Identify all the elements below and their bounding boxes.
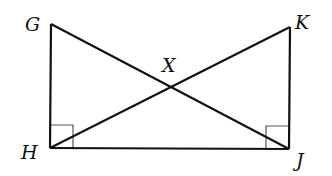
diagram-canvas: G K X H J: [0, 0, 332, 176]
right-angle-mark-h: [50, 125, 73, 148]
segment-kj: [289, 27, 290, 149]
point-label-h: H: [20, 141, 38, 163]
point-label-g: G: [25, 13, 40, 35]
point-label-x: X: [160, 54, 177, 76]
segment-gh: [50, 24, 51, 148]
point-label-j: J: [292, 149, 305, 171]
point-label-k: K: [294, 11, 311, 33]
geometry-figure: G K X H J: [0, 0, 332, 176]
segment-hj: [50, 148, 289, 149]
